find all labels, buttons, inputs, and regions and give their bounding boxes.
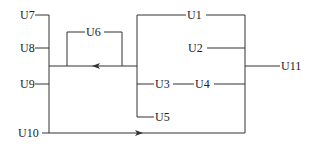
- node-u5: U5: [155, 110, 170, 124]
- node-u1: U1: [187, 8, 202, 22]
- node-u7: U7: [20, 8, 35, 22]
- node-u9: U9: [20, 77, 35, 91]
- node-u11: U11: [281, 59, 301, 73]
- node-u8: U8: [20, 41, 35, 55]
- node-u3: U3: [155, 77, 170, 91]
- diagram-svg: U7 U8 U9 U10 U6 U1 U2 U11 U3 U4 U5: [0, 0, 320, 147]
- node-u6: U6: [86, 25, 101, 39]
- node-u10: U10: [18, 126, 39, 140]
- node-u2: U2: [188, 41, 203, 55]
- diagram-canvas: U7 U8 U9 U10 U6 U1 U2 U11 U3 U4 U5: [0, 0, 320, 147]
- node-u4: U4: [195, 77, 210, 91]
